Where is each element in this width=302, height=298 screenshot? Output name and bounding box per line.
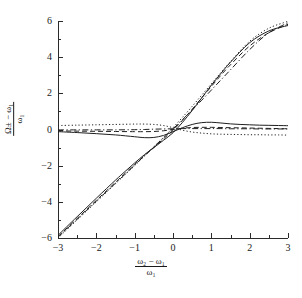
curve-diverging-dashed xyxy=(58,24,288,236)
plot-area xyxy=(58,21,288,238)
y-tick-major xyxy=(58,238,63,239)
x-tick-major xyxy=(288,233,289,238)
y-tick-label: 2 xyxy=(30,88,52,98)
x-axis-line xyxy=(58,238,288,239)
y-axis-label: Ω± − ω₁ ω₁ xyxy=(3,59,25,179)
y-tick-label: −4 xyxy=(30,197,52,207)
x-tick-label: 0 xyxy=(171,243,176,253)
chart-figure: −3−2−10123 −6−4−20246 ω₂ − ω₁ ω₁ Ω± − ω₁… xyxy=(0,0,302,298)
x-tick-label: 3 xyxy=(286,243,291,253)
x-axis-label: ω₂ − ω₁ ω₁ xyxy=(0,256,302,278)
x-tick-label: −2 xyxy=(91,243,102,253)
x-tick-label: 2 xyxy=(247,243,252,253)
x-tick-label: −1 xyxy=(129,243,140,253)
x-tick-label: −3 xyxy=(53,243,64,253)
y-tick-label: 6 xyxy=(30,16,52,26)
y-tick-label: 4 xyxy=(30,52,52,62)
curves-svg xyxy=(58,21,288,238)
x-axis-label-numerator: ω₂ − ω₁ xyxy=(135,256,167,266)
y-tick-label: −6 xyxy=(30,233,52,243)
y-tick-label: 0 xyxy=(30,125,52,135)
y-axis-label-numerator: Ω± − ω₁ xyxy=(3,102,13,136)
y-axis-label-denominator: ω₁ xyxy=(14,102,25,136)
x-tick-label: 1 xyxy=(209,243,214,253)
x-axis-label-denominator: ω₁ xyxy=(135,266,167,277)
y-tick-label: −2 xyxy=(30,161,52,171)
